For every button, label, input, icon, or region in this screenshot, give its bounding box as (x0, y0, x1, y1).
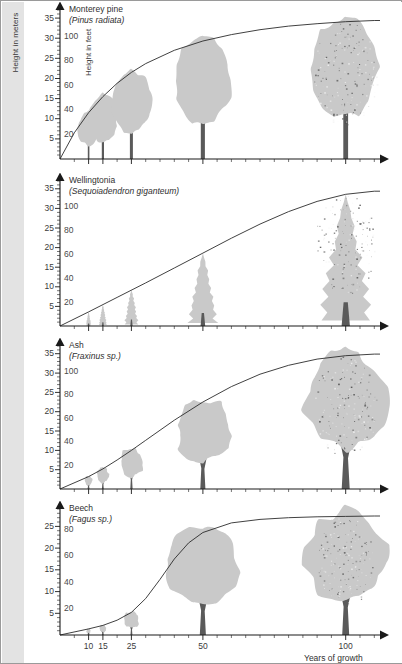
caption-wellingtonia: Wellingtonia (Sequoiadendron giganteum) (69, 175, 179, 196)
meters-tick-wellingtonia-20: 20 (34, 242, 54, 252)
feet-tick-monterey-pine-100: 100 (64, 31, 82, 41)
feet-tick-ash-40: 40 (64, 436, 82, 446)
meters-tick-beech-15: 15 (34, 564, 54, 574)
common-name-monterey-pine: Monterey pine (69, 4, 124, 15)
meters-tick-beech-10: 10 (34, 586, 54, 596)
caption-monterey-pine: Monterey pine (Pinus radiata) (69, 4, 124, 25)
feet-tick-wellingtonia-40: 40 (64, 273, 82, 283)
meters-tick-monterey-pine-35: 35 (34, 13, 54, 23)
common-name-wellingtonia: Wellingtonia (69, 175, 179, 186)
meters-tick-beech-20: 20 (34, 543, 54, 553)
feet-tick-ash-60: 60 (64, 413, 82, 423)
x-axis-label: Years of growth (304, 653, 363, 663)
meters-tick-monterey-pine-20: 20 (34, 73, 54, 83)
scientific-name-ash: (Fraxinus sp.) (69, 351, 121, 362)
meters-tick-monterey-pine-5: 5 (34, 133, 54, 143)
feet-tick-beech-20: 20 (64, 603, 82, 613)
meters-tick-ash-35: 35 (34, 348, 54, 358)
meters-tick-ash-20: 20 (34, 406, 54, 416)
meters-tick-wellingtonia-30: 30 (34, 203, 54, 213)
meters-tick-wellingtonia-10: 10 (34, 281, 54, 291)
meters-tick-beech-25: 25 (34, 521, 54, 531)
meters-tick-ash-25: 25 (34, 387, 54, 397)
feet-tick-ash-20: 20 (64, 460, 82, 470)
feet-tick-wellingtonia-20: 20 (64, 297, 82, 307)
meters-axis-strip: Height in meters (2, 2, 25, 663)
scientific-name-beech: (Fagus sp.) (69, 514, 112, 525)
meters-axis-label: Height in meters (11, 0, 20, 89)
feet-tick-monterey-pine-20: 20 (64, 129, 82, 139)
caption-beech: Beech (Fagus sp.) (69, 503, 112, 524)
feet-tick-beech-40: 40 (64, 577, 82, 587)
feet-tick-ash-80: 80 (64, 389, 82, 399)
feet-tick-beech-80: 80 (64, 524, 82, 534)
meters-tick-wellingtonia-25: 25 (34, 223, 54, 233)
feet-tick-wellingtonia-80: 80 (64, 225, 82, 235)
common-name-beech: Beech (69, 503, 112, 514)
x-tick-25: 25 (119, 641, 143, 651)
feet-axis-label: Height in feet (84, 29, 93, 76)
x-tick-100: 100 (334, 641, 358, 651)
feet-tick-monterey-pine-40: 40 (64, 104, 82, 114)
feet-tick-monterey-pine-60: 60 (64, 80, 82, 90)
caption-ash: Ash (Fraxinus sp.) (69, 340, 121, 361)
meters-tick-monterey-pine-15: 15 (34, 93, 54, 103)
meters-tick-ash-15: 15 (34, 426, 54, 436)
panel-wellingtonia: Wellingtonia (Sequoiadendron giganteum) … (24, 173, 402, 338)
scientific-name-monterey-pine: (Pinus radiata) (69, 15, 124, 26)
meters-tick-monterey-pine-30: 30 (34, 33, 54, 43)
feet-tick-wellingtonia-100: 100 (64, 201, 82, 211)
tree-growth-figure: Height in meters Monterey pine (Pinus ra… (0, 0, 402, 664)
meters-tick-wellingtonia-35: 35 (34, 183, 54, 193)
feet-tick-beech-60: 60 (64, 550, 82, 560)
meters-tick-ash-5: 5 (34, 464, 54, 474)
meters-tick-wellingtonia-15: 15 (34, 262, 54, 272)
feet-tick-ash-100: 100 (64, 366, 82, 376)
meters-tick-wellingtonia-5: 5 (34, 301, 54, 311)
panel-ash: Ash (Fraxinus sp.) 353025201510510080604… (24, 338, 402, 501)
scientific-name-wellingtonia: (Sequoiadendron giganteum) (69, 186, 179, 197)
feet-tick-wellingtonia-60: 60 (64, 249, 82, 259)
common-name-ash: Ash (69, 340, 121, 351)
panel-monterey-pine: Monterey pine (Pinus radiata) 3530252015… (24, 2, 402, 173)
meters-tick-monterey-pine-25: 25 (34, 53, 54, 63)
meters-tick-beech-5: 5 (34, 608, 54, 618)
meters-tick-ash-10: 10 (34, 445, 54, 455)
panel-beech: Beech (Fagus sp.) 2520151058060402010152… (24, 501, 402, 663)
meters-tick-monterey-pine-10: 10 (34, 113, 54, 123)
meters-tick-ash-30: 30 (34, 368, 54, 378)
x-tick-15: 15 (91, 641, 115, 651)
x-tick-50: 50 (191, 641, 215, 651)
feet-tick-monterey-pine-80: 80 (64, 55, 82, 65)
